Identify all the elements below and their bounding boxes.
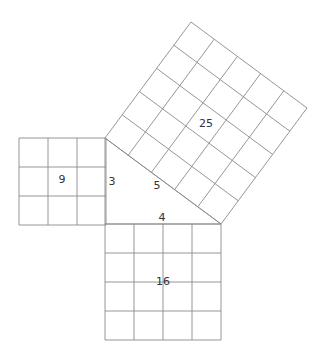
side-label-4: 4 <box>159 211 166 224</box>
area-label-9: 9 <box>59 173 66 186</box>
label-layer: 9 16 25 3 4 5 <box>59 117 214 288</box>
area-label-16: 16 <box>156 275 170 288</box>
area-label-25: 25 <box>199 117 213 130</box>
side-label-3: 3 <box>109 175 116 188</box>
pythagorean-diagram: 9 16 25 3 4 5 <box>0 0 324 357</box>
side-label-5: 5 <box>154 179 161 192</box>
